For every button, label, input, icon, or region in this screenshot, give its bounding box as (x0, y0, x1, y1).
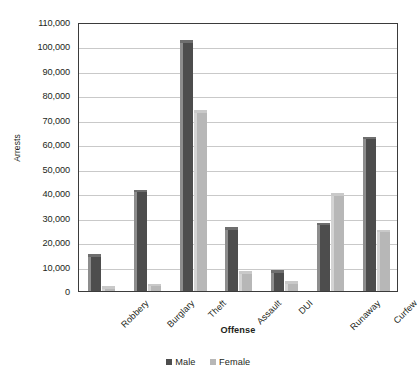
bar-robbery-female (102, 286, 115, 291)
x-axis-title: Offense (78, 325, 398, 335)
bar-top-cap (134, 190, 147, 193)
legend-swatch-icon (210, 359, 216, 365)
bar-top-cap (317, 223, 330, 226)
bar-runaway-female (331, 193, 344, 291)
bar-robbery-male (88, 254, 101, 291)
y-axis-tick-label: 90,000 (42, 67, 70, 77)
x-axis-label-curfew: Curfew (392, 298, 419, 326)
bar-top-cap (285, 281, 298, 284)
bar-edge-highlight (225, 227, 228, 291)
y-axis-tick-label: 0 (65, 287, 70, 297)
bar-curfew-male (363, 137, 376, 291)
legend-item-male: Male (166, 357, 196, 367)
bar-top-cap (148, 284, 161, 287)
bar-edge-highlight (134, 190, 137, 291)
y-axis-tick-label: 40,000 (42, 189, 70, 199)
legend-label: Male (175, 357, 195, 367)
bar-top-cap (331, 193, 344, 196)
y-axis-tick-label: 70,000 (42, 116, 70, 126)
y-axis-tick-label: 60,000 (42, 140, 70, 150)
bar-top-cap (102, 286, 115, 289)
y-axis-tick-label: 10,000 (42, 263, 70, 273)
bar-dui-female (285, 281, 298, 291)
x-axis-label-dui: DUI (296, 298, 314, 316)
bar-assault-female (239, 271, 252, 291)
bar-top-cap (194, 110, 207, 113)
bar-group (308, 24, 354, 291)
bar-edge-highlight (88, 254, 91, 291)
legend-item-female: Female (210, 357, 251, 367)
bar-group (262, 24, 308, 291)
bar-theft-male (180, 40, 193, 291)
bar-theft-female (194, 110, 207, 291)
bar-edge-highlight (331, 193, 334, 291)
bar-edge-highlight (271, 270, 274, 291)
y-axis-tick-label: 20,000 (42, 238, 70, 248)
bar-assault-male (225, 227, 238, 291)
bar-top-cap (377, 230, 390, 233)
y-axis-tick-label: 30,000 (42, 214, 70, 224)
plot-area (78, 23, 398, 292)
bar-top-cap (180, 40, 193, 43)
bar-burglary-female (148, 284, 161, 291)
bar-edge-highlight (194, 110, 197, 291)
bar-group (216, 24, 262, 291)
x-axis-label-assault: Assault (255, 298, 283, 326)
bar-edge-highlight (180, 40, 183, 291)
bar-group (170, 24, 216, 291)
bar-top-cap (239, 271, 252, 274)
bar-curfew-female (377, 230, 390, 291)
y-axis-tick-labels: 110,000100,00090,00080,00070,00060,00050… (0, 0, 74, 382)
bar-top-cap (88, 254, 101, 257)
bar-group (125, 24, 171, 291)
x-axis-label-theft: Theft (206, 298, 228, 320)
bar-runaway-male (317, 223, 330, 291)
bar-edge-highlight (239, 271, 242, 291)
bar-dui-male (271, 270, 284, 291)
legend-swatch-icon (166, 359, 172, 365)
bar-group (79, 24, 125, 291)
y-axis-tick-label: 100,000 (37, 42, 70, 52)
bar-burglary-male (134, 190, 147, 291)
y-axis-tick-label: 110,000 (38, 18, 70, 28)
bar-edge-highlight (363, 137, 366, 291)
bars-layer (79, 24, 397, 291)
bar-top-cap (363, 137, 376, 140)
bar-edge-highlight (317, 223, 320, 291)
bar-edge-highlight (377, 230, 380, 291)
y-axis-tick-label: 80,000 (42, 91, 70, 101)
bar-group (353, 24, 399, 291)
y-axis-tick-label: 50,000 (42, 165, 70, 175)
chart-legend: MaleFemale (0, 357, 416, 367)
bar-top-cap (225, 227, 238, 230)
legend-label: Female (219, 357, 250, 367)
bar-top-cap (271, 270, 284, 273)
